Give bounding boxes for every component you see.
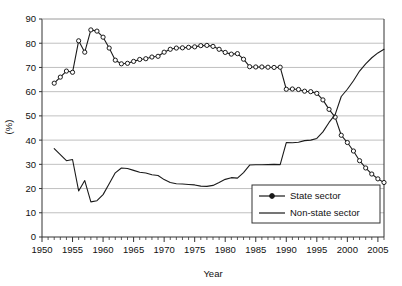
data-point bbox=[132, 59, 136, 63]
x-tick-label-1950: 1950 bbox=[31, 244, 52, 255]
data-point bbox=[70, 70, 74, 74]
data-point bbox=[217, 47, 221, 51]
data-point bbox=[241, 57, 245, 61]
y-tick-label-60: 60 bbox=[25, 86, 36, 97]
data-point bbox=[138, 57, 142, 61]
data-point bbox=[284, 87, 288, 91]
data-point bbox=[345, 140, 349, 144]
chart-legend: State sectorNon-state sector bbox=[252, 185, 380, 223]
data-point bbox=[266, 65, 270, 69]
x-tick-label-1970: 1970 bbox=[154, 244, 175, 255]
data-point bbox=[339, 133, 343, 137]
data-point bbox=[205, 43, 209, 47]
y-tick-label-10: 10 bbox=[25, 207, 36, 218]
data-point bbox=[77, 39, 81, 43]
data-point bbox=[327, 107, 331, 111]
data-point bbox=[370, 172, 374, 176]
y-tick-label-40: 40 bbox=[25, 135, 36, 146]
x-tick-label-1960: 1960 bbox=[93, 244, 114, 255]
legend-label: State sector bbox=[290, 190, 341, 201]
data-point bbox=[162, 50, 166, 54]
data-point bbox=[83, 50, 87, 54]
data-point bbox=[309, 90, 313, 94]
data-point bbox=[125, 61, 129, 65]
y-tick-label-0: 0 bbox=[31, 231, 36, 242]
x-tick-label-2005: 2005 bbox=[367, 244, 388, 255]
data-point bbox=[278, 65, 282, 69]
data-point bbox=[321, 98, 325, 102]
data-point bbox=[52, 81, 56, 85]
data-point bbox=[254, 65, 258, 69]
data-point bbox=[357, 159, 361, 163]
data-point bbox=[58, 75, 62, 79]
data-point bbox=[186, 45, 190, 49]
data-point bbox=[223, 50, 227, 54]
data-point bbox=[89, 28, 93, 32]
x-tick-label-2000: 2000 bbox=[337, 244, 358, 255]
chart-container: 0102030405060708090 19501955196019651970… bbox=[0, 0, 402, 286]
data-point bbox=[101, 35, 105, 39]
data-point bbox=[248, 65, 252, 69]
data-point bbox=[235, 52, 239, 56]
x-tick-label-1975: 1975 bbox=[184, 244, 205, 255]
data-point bbox=[296, 87, 300, 91]
data-point bbox=[211, 44, 215, 48]
y-tick-label-70: 70 bbox=[25, 62, 36, 73]
line-chart: 0102030405060708090 19501955196019651970… bbox=[0, 0, 402, 286]
data-point bbox=[107, 46, 111, 50]
data-point bbox=[351, 149, 355, 153]
x-tick-label-1965: 1965 bbox=[123, 244, 144, 255]
data-point bbox=[95, 29, 99, 33]
x-tick-label-1980: 1980 bbox=[215, 244, 236, 255]
y-tick-label-50: 50 bbox=[25, 110, 36, 121]
data-point bbox=[193, 45, 197, 49]
y-tick-label-20: 20 bbox=[25, 183, 36, 194]
y-tick-label-80: 80 bbox=[25, 38, 36, 49]
data-point bbox=[144, 57, 148, 61]
data-point bbox=[113, 58, 117, 62]
x-tick-label-1955: 1955 bbox=[62, 244, 83, 255]
data-point bbox=[64, 69, 68, 73]
data-point bbox=[199, 44, 203, 48]
data-point bbox=[290, 87, 294, 91]
data-point bbox=[272, 65, 276, 69]
data-point bbox=[229, 52, 233, 56]
data-point bbox=[303, 89, 307, 93]
y-tick-label-90: 90 bbox=[25, 13, 36, 24]
x-tick-label-1985: 1985 bbox=[245, 244, 266, 255]
legend-marker-icon bbox=[270, 194, 275, 199]
data-point bbox=[260, 65, 264, 69]
data-point bbox=[168, 47, 172, 51]
x-tick-label-1995: 1995 bbox=[306, 244, 327, 255]
data-point bbox=[315, 91, 319, 95]
data-point bbox=[180, 46, 184, 50]
data-point bbox=[119, 62, 123, 66]
y-tick-label-30: 30 bbox=[25, 159, 36, 170]
x-tick-label-1990: 1990 bbox=[276, 244, 297, 255]
data-point bbox=[156, 54, 160, 58]
data-point bbox=[382, 180, 386, 184]
data-point bbox=[174, 46, 178, 50]
legend-label: Non-state sector bbox=[290, 207, 360, 218]
data-point bbox=[376, 177, 380, 181]
x-axis-title: Year bbox=[203, 268, 222, 279]
data-point bbox=[364, 166, 368, 170]
y-axis-title: (%) bbox=[3, 120, 14, 135]
data-point bbox=[150, 55, 154, 59]
